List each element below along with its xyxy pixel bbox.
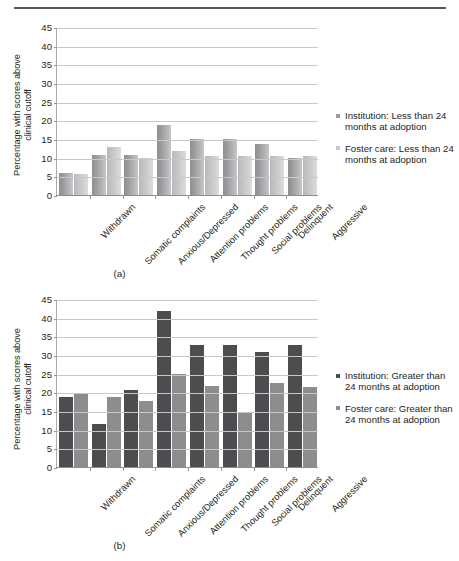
gridline — [57, 121, 318, 122]
legend-a: Institution: Less than 24 months at adop… — [336, 110, 457, 176]
x-axis-category-label: Aggressive — [329, 202, 369, 242]
y-tick-label: 30 — [41, 79, 52, 89]
legend-label: Foster care: Greater than 24 months at a… — [345, 403, 453, 425]
y-tick-label: 45 — [41, 295, 52, 305]
bar — [124, 155, 138, 195]
y-tick-mark — [54, 196, 57, 197]
figure-caption-b: (b) — [0, 540, 349, 551]
legend-entry: Institution: Less than 24 months at adop… — [336, 110, 457, 133]
figure-a: Percentage with scores above clinical cu… — [0, 18, 459, 280]
x-tick-mark — [155, 195, 156, 199]
x-axis-category-label: Withdrawn — [99, 474, 137, 512]
bar — [157, 311, 171, 467]
x-tick-mark — [123, 467, 124, 471]
y-tick-label: 10 — [41, 426, 52, 436]
y-tick-label: 40 — [41, 314, 52, 324]
x-tick-mark — [123, 195, 124, 199]
bars-a — [57, 28, 318, 195]
bar — [59, 173, 73, 195]
y-tick-mark — [54, 319, 57, 320]
y-tick-mark — [54, 337, 57, 338]
y-tick-mark — [54, 375, 57, 376]
y-tick-mark — [54, 65, 57, 66]
gridline — [57, 319, 318, 320]
y-tick-mark — [54, 103, 57, 104]
bar — [303, 387, 317, 467]
y-tick-mark — [54, 84, 57, 85]
y-tick-mark — [54, 177, 57, 178]
legend-swatch-icon — [336, 406, 340, 410]
legend-b: Institution: Greater than 24 months at a… — [336, 370, 457, 436]
x-tick-mark — [188, 467, 189, 471]
y-tick-mark — [54, 28, 57, 29]
x-tick-mark — [188, 195, 189, 199]
bar — [59, 397, 73, 467]
x-tick-mark — [90, 467, 91, 471]
x-tick-mark — [221, 195, 222, 199]
bar — [157, 125, 171, 195]
gridline — [57, 28, 318, 29]
x-axis-category-label: Aggressive — [329, 474, 369, 514]
y-tick-label: 5 — [47, 444, 52, 454]
gridline — [57, 356, 318, 357]
y-tick-mark — [54, 140, 57, 141]
legend-entry: Foster care: Greater than 24 months at a… — [336, 403, 457, 426]
y-tick-label: 40 — [41, 42, 52, 52]
bar — [107, 147, 121, 195]
y-tick-label: 0 — [47, 191, 52, 201]
bar — [124, 390, 138, 467]
y-tick-label: 20 — [41, 116, 52, 126]
y-tick-label: 35 — [41, 60, 52, 70]
legend-label: Institution: Greater than 24 months at a… — [345, 370, 445, 392]
x-tick-mark — [286, 467, 287, 471]
x-tick-mark — [90, 195, 91, 199]
y-tick-label: 35 — [41, 332, 52, 342]
bar — [107, 397, 121, 467]
y-tick-mark — [54, 393, 57, 394]
y-tick-label: 30 — [41, 351, 52, 361]
bar — [139, 401, 153, 467]
bar — [190, 139, 204, 195]
bar — [238, 156, 252, 195]
y-tick-label: 0 — [47, 463, 52, 473]
x-tick-mark — [254, 467, 255, 471]
header-rule — [14, 7, 446, 9]
legend-swatch-icon — [336, 146, 340, 150]
y-tick-label: 15 — [41, 407, 52, 417]
gridline — [57, 140, 318, 141]
y-axis-ticks-a: 051015202530354045 — [30, 28, 52, 196]
legend-entry: Institution: Greater than 24 months at a… — [336, 370, 457, 393]
y-tick-label: 20 — [41, 388, 52, 398]
y-axis-ticks-b: 051015202530354045 — [30, 300, 52, 468]
figure-caption-a: (a) — [0, 268, 349, 279]
x-tick-mark — [221, 467, 222, 471]
bar — [205, 156, 219, 195]
y-tick-mark — [54, 412, 57, 413]
gridline — [57, 412, 318, 413]
y-tick-mark — [54, 159, 57, 160]
legend-label: Institution: Less than 24 months at adop… — [345, 110, 446, 132]
x-tick-mark — [254, 195, 255, 199]
legend-label: Foster care: Less than 24 months at adop… — [345, 143, 454, 165]
y-tick-label: 10 — [41, 154, 52, 164]
y-tick-mark — [54, 47, 57, 48]
gridline — [57, 84, 318, 85]
gridline — [57, 449, 318, 450]
gridline — [57, 65, 318, 66]
gridline — [57, 300, 318, 301]
gridline — [57, 375, 318, 376]
bar — [270, 156, 284, 195]
gridline — [57, 47, 318, 48]
y-tick-label: 15 — [41, 135, 52, 145]
y-tick-label: 5 — [47, 172, 52, 182]
gridline — [57, 337, 318, 338]
y-tick-mark — [54, 356, 57, 357]
y-tick-mark — [54, 449, 57, 450]
plot-area-b — [56, 300, 318, 468]
legend-entry: Foster care: Less than 24 months at adop… — [336, 143, 457, 166]
bar — [270, 383, 284, 467]
bar — [172, 374, 186, 467]
x-axis-category-label: Withdrawn — [99, 202, 137, 240]
gridline — [57, 103, 318, 104]
y-tick-label: 25 — [41, 370, 52, 380]
